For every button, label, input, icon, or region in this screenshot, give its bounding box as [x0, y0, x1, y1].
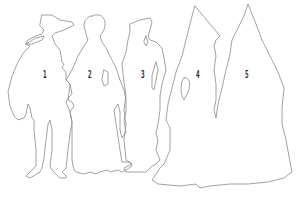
- figure-4-sleeve-loop: [181, 78, 190, 100]
- figure-2-outline: [66, 15, 132, 174]
- figure-2-sleeve-gap: [102, 70, 108, 86]
- figure-label-2: 2: [88, 70, 92, 80]
- figure-label-3: 3: [141, 70, 145, 80]
- figure-label-5: 5: [245, 70, 249, 80]
- figure-canvas: 1 2 3 4 5: [0, 0, 296, 208]
- figure-3-earring: [144, 36, 148, 46]
- figure-3-sleeve-gap: [152, 62, 158, 90]
- figure-4-outline: [152, 4, 292, 188]
- figure-1-outline: [8, 15, 74, 178]
- figure-label-1: 1: [43, 70, 47, 80]
- figure-label-4: 4: [196, 70, 200, 80]
- outline-drawing: [0, 0, 296, 208]
